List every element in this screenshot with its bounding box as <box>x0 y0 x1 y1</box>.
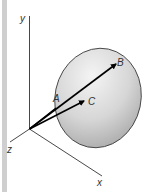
point-c-label: C <box>88 96 96 107</box>
vector-diagram: y z x A B C <box>0 0 151 192</box>
z-axis-label: z <box>6 144 12 155</box>
point-a-label: A <box>52 93 60 104</box>
y-axis-label: y <box>19 13 26 24</box>
vector-a <box>30 108 57 129</box>
z-axis <box>10 129 30 142</box>
point-b-label: B <box>117 57 124 68</box>
x-axis-label: x <box>96 177 103 188</box>
surface-ellipse <box>46 40 151 156</box>
